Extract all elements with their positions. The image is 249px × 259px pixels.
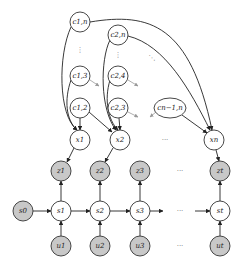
node-c-1-3: c1,3 <box>70 66 90 86</box>
node-s-t: st <box>210 201 230 221</box>
node-c-n-1-n: cn−1,n <box>154 98 186 118</box>
node-u-t: ut <box>210 236 230 256</box>
node-x-n: xn <box>204 130 224 150</box>
node-s-3: s3 <box>130 201 150 221</box>
x-nodes: x1 x2 xn <box>70 130 224 150</box>
edge-c23-x2 <box>119 118 120 130</box>
svg-text:z3: z3 <box>135 167 145 175</box>
node-s-1: s1 <box>51 201 71 221</box>
edge-x2-z2 <box>105 148 113 162</box>
svg-text:s0: s0 <box>19 207 28 215</box>
node-u-3: u3 <box>130 236 150 256</box>
svg-text:cn−1,n: cn−1,n <box>157 104 183 112</box>
c-nodes: c1,n c2,n c1,3 c1,2 c2,4 c2,3 cn−1,n <box>70 12 186 118</box>
node-z-1: z1 <box>51 161 71 181</box>
hdots-x: ··· <box>162 136 169 144</box>
svg-text:ut: ut <box>216 242 224 250</box>
svg-text:c2,4: c2,4 <box>110 72 125 80</box>
svg-text:u3: u3 <box>136 242 146 250</box>
svg-text:z1: z1 <box>56 167 65 175</box>
node-u-1: u1 <box>51 236 71 256</box>
node-s-2: s2 <box>90 201 110 221</box>
svg-text:s1: s1 <box>57 207 65 215</box>
edge-cn1n-faint <box>150 112 156 117</box>
node-x-1: x1 <box>70 130 90 150</box>
node-z-t: zt <box>210 161 230 181</box>
svg-text:u2: u2 <box>96 242 106 250</box>
node-x-2: x2 <box>110 130 130 150</box>
node-u-2: u2 <box>90 236 110 256</box>
svg-text:x1: x1 <box>76 136 84 144</box>
node-z-2: z2 <box>90 161 110 181</box>
svg-text:z2: z2 <box>95 167 105 175</box>
svg-text:xn: xn <box>210 136 219 144</box>
node-c-1-n: c1,n <box>70 12 90 32</box>
ddots: ⋱ <box>149 54 156 62</box>
hdots-z: ··· <box>177 167 184 175</box>
edge-c24-faint <box>128 80 138 86</box>
edge-c23-faint <box>128 112 138 117</box>
node-c-2-n: c2,n <box>108 25 128 45</box>
svg-text:c1,n: c1,n <box>72 18 88 26</box>
svg-text:c1,3: c1,3 <box>72 72 88 80</box>
svg-text:st: st <box>217 207 224 215</box>
svg-text:x2: x2 <box>116 136 125 144</box>
edge-x1-z1 <box>67 148 74 162</box>
edge-c13-faint <box>90 80 99 86</box>
z-nodes: z1 z2 z3 zt <box>51 161 230 181</box>
svg-text:s3: s3 <box>136 207 145 215</box>
u-nodes: u1 u2 u3 ut <box>51 236 230 256</box>
svg-text:u1: u1 <box>57 242 66 250</box>
vdots-col2: ⋮ <box>115 51 122 59</box>
ellipses: ⋮ ⋮ ⋱ ··· ··· ··· ··· <box>77 46 184 250</box>
node-c-2-3: c2,3 <box>108 98 128 118</box>
node-z-3: z3 <box>130 161 150 181</box>
svg-text:c2,3: c2,3 <box>110 104 126 112</box>
svg-text:zt: zt <box>216 167 224 175</box>
edges-x-to-z <box>67 148 219 162</box>
edge-xn-zt <box>216 150 219 161</box>
svg-text:s2: s2 <box>96 207 105 215</box>
graphical-model-diagram: ⋮ ⋮ ⋱ ··· ··· ··· ··· c1,n c2,n c1,3 c1,… <box>0 0 249 259</box>
hdots-u: ··· <box>177 242 184 250</box>
node-c-2-4: c2,4 <box>108 66 128 86</box>
node-s-0: s0 <box>13 201 33 221</box>
node-c-1-2: c1,2 <box>70 98 90 118</box>
hdots-s: ··· <box>177 207 184 215</box>
vdots-col1: ⋮ <box>77 46 84 54</box>
svg-text:c2,n: c2,n <box>110 31 126 39</box>
svg-text:c1,2: c1,2 <box>72 104 88 112</box>
